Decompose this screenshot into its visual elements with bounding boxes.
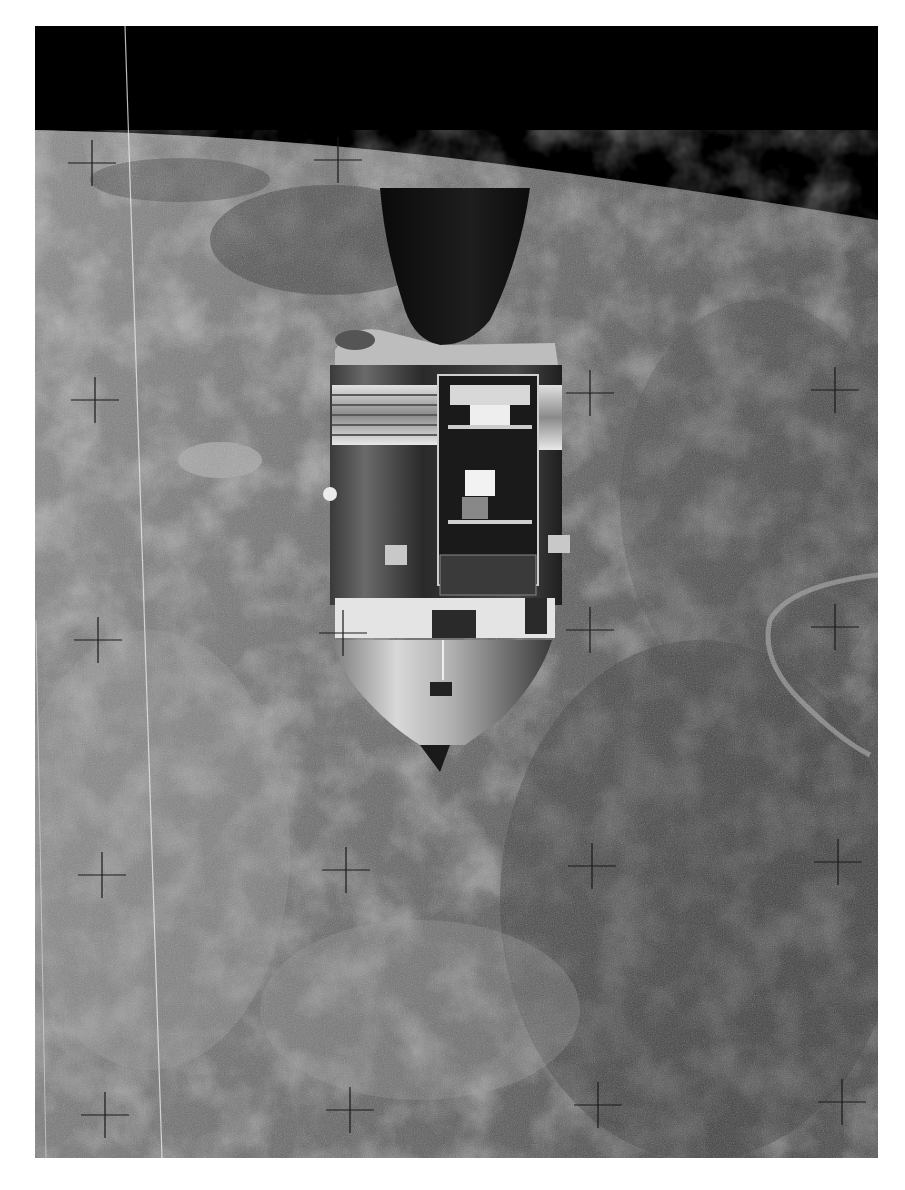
lunar-orbit-photograph: Apollo Command/Service Module in lunar o… bbox=[35, 26, 878, 1158]
photo-canvas bbox=[35, 26, 878, 1158]
